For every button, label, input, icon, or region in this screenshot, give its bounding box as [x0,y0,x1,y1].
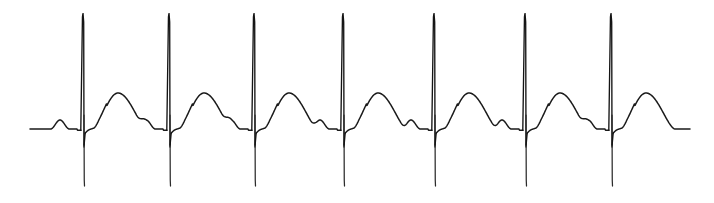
chart-background [0,0,714,203]
qrs-s-spike-5 [435,115,436,186]
qrs-s-spike-4 [344,115,345,186]
qrs-s-spike-2 [170,115,171,186]
qrs-s-spike-7 [612,115,613,186]
ecg-figure [0,0,714,203]
qrs-s-spike-6 [526,115,527,186]
qrs-s-spike-3 [255,115,256,186]
ecg-waveform-chart [0,0,714,203]
qrs-s-spike-1 [84,115,85,186]
